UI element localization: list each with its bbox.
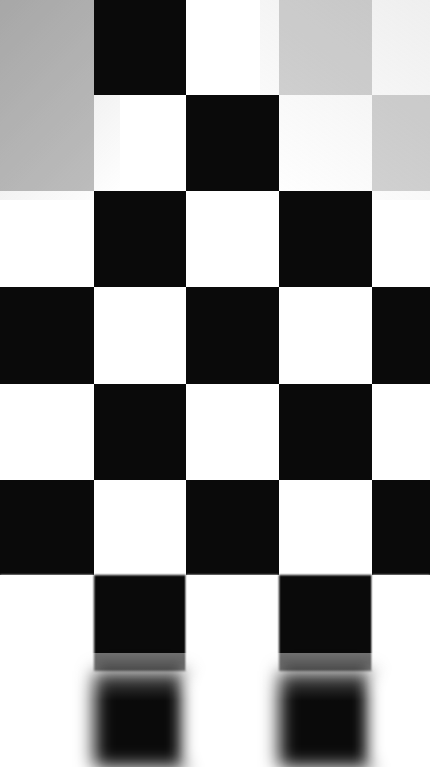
checker-square-r6-c0 — [0, 575, 94, 671]
checker-square-r3-c4 — [372, 287, 430, 384]
checker-square-r4-c1 — [94, 384, 186, 480]
checker-square-r2-c0 — [0, 191, 94, 287]
checker-square-r2-c1 — [94, 191, 186, 287]
checker-square-r7-c0 — [0, 671, 94, 767]
checker-square-r2-c2 — [186, 191, 279, 287]
checker-square-r7-c1 — [94, 671, 186, 767]
checker-square-r2-c4 — [372, 191, 430, 287]
checker-square-r0-c2 — [186, 0, 279, 95]
checker-square-r7-c2 — [186, 671, 279, 767]
checker-square-r3-c3 — [279, 287, 372, 384]
checker-square-r1-c3 — [279, 95, 372, 191]
checker-square-r3-c1 — [94, 287, 186, 384]
checker-square-r1-c4 — [372, 95, 430, 191]
checker-square-r4-c4 — [372, 384, 430, 480]
checker-square-r5-c1 — [94, 480, 186, 575]
checker-square-r0-c1 — [94, 0, 186, 95]
checker-square-r6-c1 — [94, 575, 186, 671]
checker-square-r4-c2 — [186, 384, 279, 480]
checker-square-r4-c3 — [279, 384, 372, 480]
checker-square-r6-c4 — [372, 575, 430, 671]
checker-square-r1-c2 — [186, 95, 279, 191]
checker-square-r3-c2 — [186, 287, 279, 384]
checker-square-r0-c3 — [279, 0, 372, 95]
checker-square-r6-c2 — [186, 575, 279, 671]
checker-square-r1-c0 — [0, 95, 94, 191]
checker-square-r2-c3 — [279, 191, 372, 287]
checker-square-r5-c0 — [0, 480, 94, 575]
checker-square-r7-c3 — [279, 671, 372, 767]
checker-square-r0-c0 — [0, 0, 94, 95]
checker-square-r0-c4 — [372, 0, 430, 95]
checker-square-r6-c3 — [279, 575, 372, 671]
checker-square-r3-c0 — [0, 287, 94, 384]
checkerboard-image — [0, 0, 430, 767]
checker-square-r4-c0 — [0, 384, 94, 480]
checker-square-r5-c4 — [372, 480, 430, 575]
checker-square-r5-c3 — [279, 480, 372, 575]
checker-square-r1-c1 — [94, 95, 186, 191]
checker-square-r7-c4 — [372, 671, 430, 767]
checker-square-r5-c2 — [186, 480, 279, 575]
